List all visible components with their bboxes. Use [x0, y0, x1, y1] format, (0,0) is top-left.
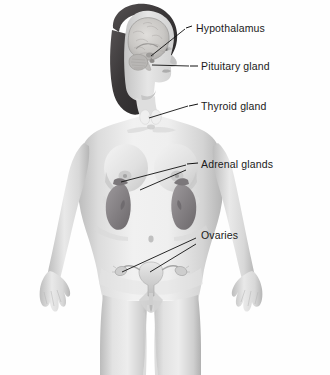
hand-left: [40, 271, 71, 312]
anatomy-illustration: [0, 0, 330, 375]
label-adrenal-glands: Adrenal glands: [201, 159, 273, 170]
label-ovaries: Ovaries: [201, 230, 238, 241]
leg-left: [100, 295, 150, 375]
hand-right: [232, 271, 263, 312]
label-thyroid-gland: Thyroid gland: [201, 101, 267, 112]
leader-thyroid-dash: [189, 104, 198, 106]
label-pituitary-gland: Pituitary gland: [201, 61, 270, 72]
endocrine-system-figure: Hypothalamus Pituitary gland Thyroid gla…: [0, 0, 330, 375]
leader-hypothalamus-dash: [186, 26, 192, 28]
label-hypothalamus: Hypothalamus: [196, 23, 265, 34]
